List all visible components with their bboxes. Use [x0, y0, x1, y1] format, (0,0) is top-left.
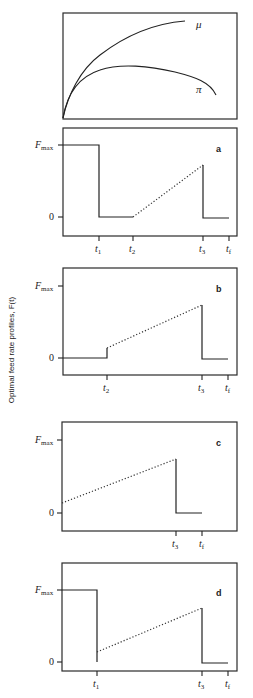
panel-letter-c: c — [216, 438, 221, 448]
feed-profile-d-solid-2 — [202, 608, 228, 663]
tf-label-b: tf — [225, 382, 231, 395]
t1-label-d: t1 — [93, 678, 100, 691]
figure: Optimal feed rate profiles, F(t) μ π Fma… — [0, 0, 253, 698]
panel-a: Fmax 0 a t1 t2 t3 tf — [34, 128, 237, 256]
panel-c: Fmax 0 c t3 tf — [34, 422, 237, 551]
panel-letter-a: a — [216, 144, 222, 154]
feed-profile-a-dotted — [133, 165, 203, 217]
t3-label-c: t3 — [172, 538, 179, 551]
panel-d: Fmax 0 d t1 t3 tf — [34, 563, 237, 691]
fmax-label-b: Fmax — [34, 280, 54, 293]
panel-b: Fmax 0 b t2 t3 tf — [34, 268, 237, 395]
t2-label-a: t2 — [129, 243, 136, 256]
t3-label-a: t3 — [199, 243, 206, 256]
zero-label-d: 0 — [49, 656, 54, 667]
pi-curve — [63, 66, 216, 118]
mu-label: μ — [195, 18, 202, 30]
panel-top: μ π — [63, 13, 237, 119]
t3-label-b: t3 — [198, 382, 205, 395]
tf-label-c: tf — [199, 538, 205, 551]
fmax-label-a: Fmax — [34, 139, 54, 152]
t2-label-b: t2 — [103, 382, 110, 395]
tf-label-a: tf — [226, 243, 232, 256]
panel-letter-b: b — [216, 284, 222, 294]
y-axis-label: Optimal feed rate profiles, F(t) — [7, 297, 16, 404]
feed-profile-b-solid-1 — [63, 348, 107, 358]
tf-label-d: tf — [225, 678, 231, 691]
mu-curve — [63, 21, 185, 118]
feed-profile-d-dotted — [97, 608, 202, 652]
fmax-label-d: Fmax — [34, 584, 54, 597]
pi-label: π — [196, 83, 202, 95]
feed-profile-a-solid-1 — [63, 145, 133, 217]
zero-label-c: 0 — [49, 507, 54, 518]
feed-profile-a-solid-2 — [203, 165, 229, 218]
panel-letter-d: d — [216, 588, 222, 598]
feed-profile-d-solid-1 — [62, 590, 97, 662]
zero-label-a: 0 — [49, 211, 54, 222]
zero-label-b: 0 — [49, 352, 54, 363]
t3-label-d: t3 — [198, 678, 205, 691]
panel-c-frame — [62, 422, 237, 531]
fmax-label-c: Fmax — [34, 434, 54, 447]
panel-d-frame — [62, 563, 237, 671]
feed-profile-c-dotted — [62, 459, 176, 503]
feed-profile-c-solid — [176, 459, 202, 513]
panel-top-frame — [63, 13, 237, 119]
feed-profile-b-dotted — [107, 305, 202, 348]
panel-a-frame — [63, 128, 237, 236]
feed-profile-b-solid-2 — [202, 305, 228, 359]
t1-label-a: t1 — [95, 243, 102, 256]
